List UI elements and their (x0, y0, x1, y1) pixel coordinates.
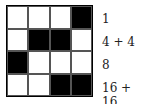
empty-cell (28, 74, 49, 97)
empty-cell (71, 29, 92, 52)
filled-cell (71, 6, 92, 29)
filled-cell (50, 29, 71, 52)
filled-cell (50, 74, 71, 97)
empty-cell (50, 51, 71, 74)
empty-cell (7, 74, 28, 97)
row-label-2: 4 + 4 (102, 35, 135, 49)
empty-cell (50, 6, 71, 29)
filled-cell (7, 51, 28, 74)
row-label-4: 16 + 16 (102, 81, 142, 104)
filled-cell (28, 29, 49, 52)
row-label-1: 1 (102, 12, 110, 26)
empty-cell (71, 51, 92, 74)
empty-cell (7, 29, 28, 52)
empty-cell (7, 6, 28, 29)
binary-grid (6, 5, 93, 97)
empty-cell (28, 6, 49, 29)
row-label-3: 8 (102, 58, 110, 72)
empty-cell (28, 51, 49, 74)
filled-cell (71, 74, 92, 97)
